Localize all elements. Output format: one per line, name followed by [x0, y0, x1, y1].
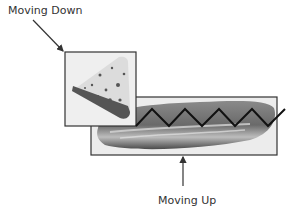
- moving-down-arrow: [33, 20, 63, 51]
- cheese-image: [65, 52, 136, 126]
- diagram-canvas: [0, 0, 288, 210]
